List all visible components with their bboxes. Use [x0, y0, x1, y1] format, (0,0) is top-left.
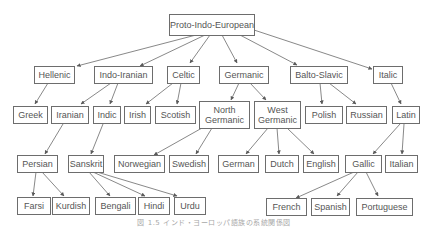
node-kurdish: Kurdish [52, 197, 90, 215]
edge-indo-iranian-indic [110, 83, 118, 104]
edge-iranian-persian [45, 124, 63, 154]
edge-germanic-west-germanic [250, 83, 266, 100]
node-swedish: Swedish [169, 155, 209, 173]
edge-indic-sanskrit [91, 124, 103, 154]
node-west-germanic: West Germanic [254, 101, 301, 129]
language-family-tree-diagram: Proto-Indo-European Hellenic Indo-Irania… [0, 0, 428, 230]
edge-hellenic-greek [35, 83, 48, 104]
node-portuguese: Portuguese [356, 198, 413, 216]
node-farsi: Farsi [17, 197, 51, 215]
edge-germanic-north-germanic [231, 83, 239, 100]
edge-gallic-portuguese [366, 172, 378, 196]
node-italic: Italic [373, 66, 403, 84]
edge-root-italic [254, 30, 372, 69]
edge-sanskrit-bengali [89, 172, 110, 196]
edge-balto-slavic-polish [320, 83, 322, 104]
node-russian: Russian [346, 106, 387, 124]
figure-caption: 図 1.5 インド・ヨーロッパ語族の系統関係図 [0, 217, 428, 227]
node-french: French [266, 198, 307, 216]
node-latin: Latin [392, 106, 420, 124]
edge-indo-iranian-iranian [81, 83, 111, 104]
node-greek: Greek [13, 106, 48, 124]
node-hindi: Hindi [138, 197, 170, 215]
node-indo-iranian: Indo-Iranian [94, 66, 153, 84]
edge-root-hellenic [77, 35, 196, 66]
edge-latin-gallic [373, 124, 400, 154]
node-italian: Italian [385, 155, 418, 173]
edge-balto-slavic-russian [329, 83, 356, 104]
node-norwegian: Norwegian [114, 155, 165, 173]
node-sanskrit: Sanskrit [68, 155, 104, 173]
edge-celtic-irish [146, 83, 173, 104]
edge-root-celtic [190, 35, 210, 63]
node-germanic: Germanic [219, 66, 269, 84]
node-iranian: Iranian [51, 106, 89, 124]
node-urdu: Urdu [174, 197, 206, 215]
edge-latin-italian [402, 124, 404, 154]
edge-north-germanic-norwegian [154, 128, 202, 155]
node-balto-slavic: Balto-Slavic [290, 66, 348, 84]
edge-root-germanic [222, 35, 237, 63]
edge-north-germanic-swedish [196, 128, 212, 154]
node-hellenic: Hellenic [34, 66, 75, 84]
edge-gallic-french [296, 172, 354, 198]
node-north-germanic: North Germanic [199, 101, 250, 129]
node-english: English [303, 155, 339, 173]
edge-gallic-spanish [337, 172, 358, 196]
node-celtic: Celtic [167, 66, 200, 84]
node-persian: Persian [17, 155, 58, 173]
node-bengali: Bengali [95, 197, 136, 215]
edge-west-germanic-german [246, 128, 268, 154]
edge-west-germanic-english [287, 128, 314, 154]
node-scotish: Scotish [155, 106, 196, 124]
node-gallic: Gallic [345, 155, 382, 173]
node-polish: Polish [305, 106, 343, 124]
node-indic: Indic [93, 106, 121, 124]
edge-west-germanic-dutch [277, 128, 279, 154]
node-german: German [218, 155, 259, 173]
edge-persian-kurdish [42, 172, 64, 196]
node-irish: Irish [124, 106, 151, 124]
node-proto-indo-european: Proto-Indo-European [169, 14, 255, 36]
node-dutch: Dutch [265, 155, 299, 173]
edge-italic-latin [391, 83, 401, 104]
edge-root-indo-iranian [140, 35, 205, 66]
edge-root-balto-slavic [240, 35, 297, 65]
node-spanish: Spanish [311, 198, 350, 216]
edge-celtic-scotish [177, 83, 181, 104]
edge-persian-farsi [33, 172, 36, 196]
